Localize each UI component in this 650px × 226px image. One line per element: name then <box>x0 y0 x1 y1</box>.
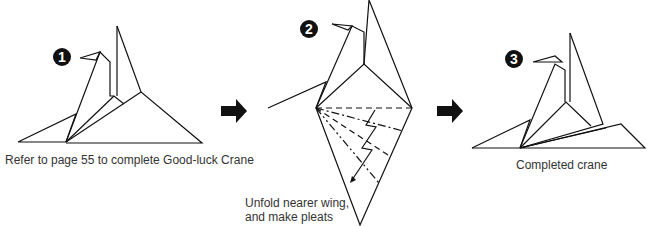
step3-caption: Completed crane <box>516 158 607 172</box>
step1-caption: Refer to page 55 to complete Good-luck C… <box>5 153 254 167</box>
right-arrow-icon <box>437 99 463 123</box>
step-number-2: 2 <box>300 20 318 38</box>
step2-caption-line2: and make pleats <box>245 210 333 224</box>
step1-crane <box>18 26 202 143</box>
step-number-3: 3 <box>505 50 523 68</box>
right-arrow-icon <box>221 99 247 123</box>
step-number-1: 1 <box>53 48 71 66</box>
step2-caption-line1: Unfold nearer wing, <box>245 196 349 210</box>
step2-diagram <box>268 0 412 225</box>
origami-diagram <box>0 0 650 226</box>
step3-crane <box>472 33 645 148</box>
